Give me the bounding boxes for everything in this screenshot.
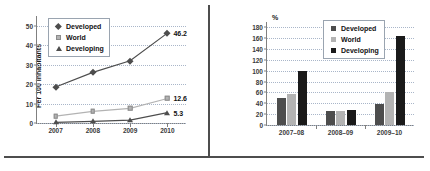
legend-item-world: World xyxy=(52,32,104,43)
y-axis-tick-mark xyxy=(264,92,267,93)
square-marker-icon xyxy=(52,35,65,40)
x-axis-tick-label: 2007 xyxy=(48,127,62,134)
y-axis-tick-mark xyxy=(264,70,267,71)
y-axis-tick-mark xyxy=(264,81,267,82)
y-axis-tick-label: 180 xyxy=(252,24,263,31)
legend-label-developing: Developing xyxy=(341,47,379,54)
bar-chart-panel: % 0204060801001201401601802007–082008–09… xyxy=(210,0,430,152)
y-axis-tick-label: 0 xyxy=(259,122,263,129)
legend-label-world: World xyxy=(66,34,86,41)
bar xyxy=(298,71,307,125)
gridline xyxy=(267,82,414,83)
y-axis-tick-label: 100 xyxy=(252,67,263,74)
line-chart-legend: Developed World Developing xyxy=(48,18,110,57)
x-axis-tick-mark xyxy=(316,125,317,129)
y-axis-tick-label: 10 xyxy=(26,100,33,107)
legend-label-developed: Developed xyxy=(66,23,101,30)
legend-item-developed: Developed xyxy=(52,21,104,32)
bar xyxy=(326,111,335,125)
y-axis-tick-mark xyxy=(264,49,267,50)
two-panel-figure: Per 100 inhabitants 01020304050200720082… xyxy=(0,0,430,171)
legend-label-developing: Developing xyxy=(66,45,104,52)
y-axis-tick-label: 20 xyxy=(26,81,33,88)
bar xyxy=(396,36,405,125)
square-swatch-developed-icon xyxy=(327,26,340,31)
y-axis-tick-label: 20 xyxy=(256,111,263,118)
gridline xyxy=(267,60,414,61)
y-axis-tick-label: 60 xyxy=(256,89,263,96)
x-axis-tick-label: 2008 xyxy=(86,127,100,134)
y-axis-tick-mark xyxy=(264,27,267,28)
bar xyxy=(347,110,356,125)
triangle-marker-icon xyxy=(52,46,65,51)
y-axis-tick-label: 120 xyxy=(252,56,263,63)
y-axis-tick-label: 0 xyxy=(29,120,33,127)
data-point-label-developing: 5.3 xyxy=(173,109,183,116)
y-axis-tick-mark xyxy=(264,125,267,126)
gridline xyxy=(267,71,414,72)
data-point-label-world: 12.6 xyxy=(173,95,187,102)
bar-chart-legend: Developed World Developing xyxy=(323,20,385,59)
bar xyxy=(375,104,384,125)
bar xyxy=(336,111,345,125)
y-axis-tick-label: 160 xyxy=(252,35,263,42)
line-series-world xyxy=(56,98,168,116)
y-axis-tick-label: 80 xyxy=(256,78,263,85)
legend-item-world: World xyxy=(327,34,379,45)
diamond-marker-icon xyxy=(52,24,65,29)
y-axis-tick-mark xyxy=(264,38,267,39)
y-axis-tick-label: 140 xyxy=(252,46,263,53)
square-swatch-world-icon xyxy=(327,37,340,42)
y-axis-tick-label: 40 xyxy=(26,42,33,49)
y-axis-tick-mark xyxy=(264,114,267,115)
legend-label-world: World xyxy=(341,36,361,43)
bar xyxy=(385,92,394,125)
x-axis-tick-mark xyxy=(365,125,366,129)
y-axis-tick-label: 50 xyxy=(26,22,33,29)
legend-item-developed: Developed xyxy=(327,23,379,34)
line-chart-panel: Per 100 inhabitants 01020304050200720082… xyxy=(0,0,208,152)
square-swatch-developing-icon xyxy=(327,48,340,53)
gridline xyxy=(267,125,414,126)
y-axis-tick-label: 30 xyxy=(26,61,33,68)
x-axis-tick-label: 2010 xyxy=(160,127,174,134)
bar xyxy=(287,94,296,125)
legend-item-developing: Developing xyxy=(52,43,104,54)
legend-item-developing: Developing xyxy=(327,45,379,56)
y-axis-tick-mark xyxy=(264,59,267,60)
y-axis-tick-mark xyxy=(264,103,267,104)
data-point-label-developed: 46.2 xyxy=(173,30,187,37)
bar-chart-y-axis-title: % xyxy=(272,14,278,21)
x-axis-tick-label: 2007–08 xyxy=(279,129,304,136)
x-axis-tick-label: 2009–10 xyxy=(377,129,402,136)
x-axis-tick-label: 2008–09 xyxy=(328,129,353,136)
gridline xyxy=(37,123,186,124)
footer-rule xyxy=(4,156,424,158)
x-axis-tick-label: 2009 xyxy=(123,127,137,134)
legend-label-developed: Developed xyxy=(341,25,376,32)
bar xyxy=(277,98,286,125)
y-axis-tick-label: 40 xyxy=(256,100,263,107)
